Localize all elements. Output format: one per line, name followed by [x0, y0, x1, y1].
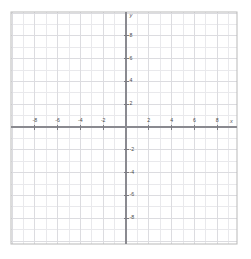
coordinate-plane-graph: -8-6-4-224688642-2-4-6-8yx [0, 0, 251, 259]
x-axis-tick-label: -4 [78, 118, 83, 123]
x-axis-tick-label: 6 [193, 118, 196, 123]
y-axis-tick-label: -4 [130, 170, 135, 175]
x-axis-tick-label: -8 [32, 118, 37, 123]
y-axis-tick-label: -6 [130, 193, 135, 198]
y-axis-label: y [130, 13, 133, 19]
minor-gridlines [11, 12, 237, 244]
x-axis-label: x [230, 119, 233, 125]
x-axis-tick-label: -2 [101, 118, 106, 123]
y-axis-tick-label: -2 [130, 147, 135, 152]
x-axis-tick-label: -6 [55, 118, 60, 123]
x-axis-tick-label: 8 [216, 118, 219, 123]
y-axis-tick-label: 2 [130, 102, 133, 107]
y-axis-tick-label: 6 [130, 56, 133, 61]
x-axis-tick-label: 4 [170, 118, 173, 123]
x-axis-tick-label: 2 [147, 118, 150, 123]
y-axis-tick-label: -8 [130, 216, 135, 221]
graph-canvas [0, 0, 251, 259]
y-axis-tick-label: 4 [130, 79, 133, 84]
y-axis-tick-label: 8 [130, 33, 133, 38]
